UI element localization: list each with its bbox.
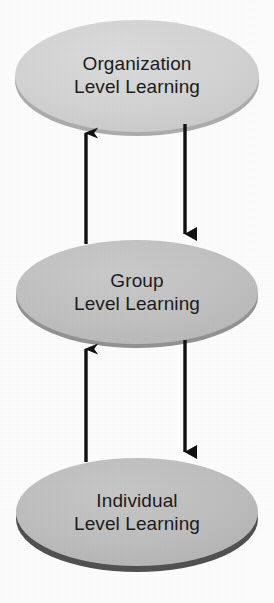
node-group[interactable] (16, 240, 258, 348)
node-group-face (16, 240, 258, 344)
diagram-canvas: Organization Level Learning Group Level … (0, 0, 274, 603)
diagram-graphics (0, 0, 274, 603)
node-individual-face (16, 458, 258, 566)
node-organization-face (15, 20, 259, 132)
node-organization[interactable] (15, 20, 259, 136)
node-individual[interactable] (16, 458, 258, 572)
